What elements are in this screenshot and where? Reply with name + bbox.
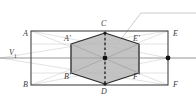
label-E: E (173, 30, 178, 38)
label-Bp: B' (64, 73, 71, 81)
label-B-text: B (23, 80, 28, 89)
label-C: C (101, 20, 106, 28)
label-Ep-text: E' (133, 34, 140, 43)
vertex-d-dot (103, 82, 106, 85)
vertex-c-dot (103, 31, 106, 34)
label-F-text: F (173, 80, 178, 89)
callout-leader-line (118, 13, 196, 43)
label-Fp: F' (133, 73, 140, 81)
label-Fp-text: F' (133, 72, 140, 81)
label-Ep: E' (133, 35, 140, 43)
label-Ap: A' (64, 35, 71, 43)
label-D: D (101, 88, 107, 96)
label-V1-subscript: 1 (14, 53, 17, 59)
label-A-text: A (23, 29, 28, 38)
label-V1: V1 (9, 49, 17, 59)
right-vanishing-point-dot (166, 56, 171, 61)
figure-svg (0, 0, 196, 106)
label-D-text: D (101, 87, 107, 96)
hexagon-center-dot (103, 56, 108, 61)
geometry-figure: AV1BEFCDA'E'B'F' (0, 0, 196, 106)
label-C-text: C (101, 19, 106, 28)
label-F: F (173, 81, 178, 89)
label-E-text: E (173, 29, 178, 38)
label-Ap-text: A' (64, 34, 71, 43)
label-Bp-text: B' (64, 72, 71, 81)
label-A: A (23, 30, 28, 38)
label-B: B (23, 81, 28, 89)
